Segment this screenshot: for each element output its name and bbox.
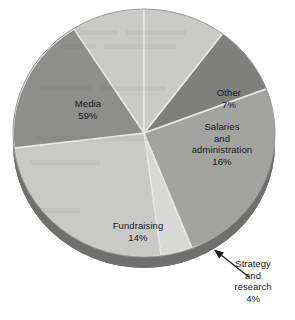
slice-label-media: Media 59% <box>54 98 122 121</box>
slice-label-fundraising: Fundraising 14% <box>98 220 178 243</box>
slice-label-other: Other 7% <box>199 87 259 110</box>
slice-label-strategy-and-research: Strategy and research 4% <box>220 258 286 304</box>
slice-label-salaries-and-administration: Salaries and administration 16% <box>174 121 270 167</box>
pie-chart-figure: Media 59% Other 7% Salaries and administ… <box>0 0 295 320</box>
